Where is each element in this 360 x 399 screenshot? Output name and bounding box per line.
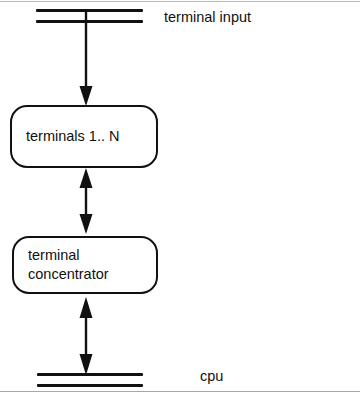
bus-bar-upper <box>36 9 143 12</box>
bus-bar-upper <box>37 373 143 376</box>
arrow-input-to-terminals <box>80 12 93 106</box>
node-terminal-concentrator-label: terminal concentrator <box>28 246 109 284</box>
terminal-input-label: terminal input <box>164 9 251 25</box>
bus-bar-lower <box>37 384 143 387</box>
bus-bar-lower <box>36 20 143 23</box>
page-top-rule <box>0 1 360 2</box>
arrow-terminals-to-concentrator <box>80 168 93 234</box>
node-terminal-concentrator[interactable]: terminal concentrator <box>12 236 158 294</box>
node-terminals[interactable]: terminals 1.. N <box>10 105 158 168</box>
cpu-label: cpu <box>200 368 223 384</box>
node-terminals-label: terminals 1.. N <box>26 127 119 146</box>
page-bottom-rule <box>0 391 360 392</box>
connector-layer <box>0 0 360 399</box>
diagram-canvas: terminal input terminals 1.. N terminal … <box>0 0 360 399</box>
arrow-concentrator-to-cpu <box>80 297 93 375</box>
